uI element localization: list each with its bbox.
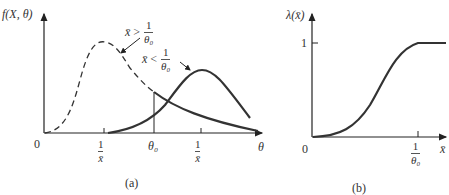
plot-a-origin: 0 — [34, 138, 40, 150]
plot-b-ytick: 1 — [301, 37, 307, 49]
plot-b-xlabel: x̄ — [440, 143, 445, 155]
plot-a-tick-theta0: θ₀ — [148, 140, 158, 152]
plot-a-tick-3: 1 x̄ — [195, 139, 201, 164]
plot-b-axes — [312, 14, 446, 137]
plot-b-origin: 0 — [302, 143, 308, 155]
figure-canvas — [0, 0, 449, 195]
plot-a-xlabel: θ — [258, 141, 264, 153]
plot-a-tick-1: 1 x̄ — [98, 139, 104, 164]
caption-a: (a) — [125, 176, 138, 191]
curve-dashed-xbar-gt — [45, 42, 154, 133]
plot-a-ylabel: f(X, θ) — [2, 8, 33, 20]
caption-b: (b) — [352, 181, 366, 195]
annotation-xbar-gt: x̄ > 1θ₀ — [125, 20, 153, 45]
plot-b-xtick: 1 θ₀ — [411, 141, 420, 166]
annotation-xbar-lt: x̄ < 1θ₀ — [142, 47, 170, 72]
plot-b-ylabel: λ(x̄) — [286, 9, 305, 21]
curve-lambda — [313, 43, 446, 137]
